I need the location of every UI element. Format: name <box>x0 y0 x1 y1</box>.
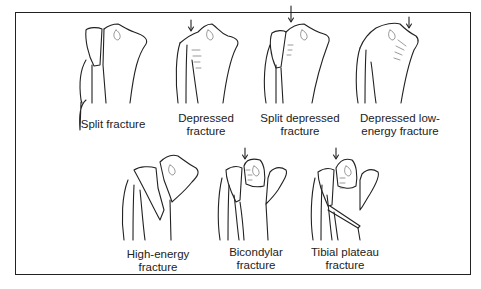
label-high-energy-fracture: High-energy fracture <box>113 248 203 273</box>
label-bicondylar-fracture: Bicondylar fracture <box>216 246 296 271</box>
label-depressed-low-energy-fracture: Depressed low- energy fracture <box>345 112 455 137</box>
label-depressed-fracture: Depressed fracture <box>166 112 246 137</box>
label-split-depressed-fracture: Split depressed fracture <box>250 112 350 137</box>
label-split-fracture: Split fracture <box>68 118 158 131</box>
label-tibial-plateau-fracture: Tibial plateau fracture <box>300 246 390 271</box>
